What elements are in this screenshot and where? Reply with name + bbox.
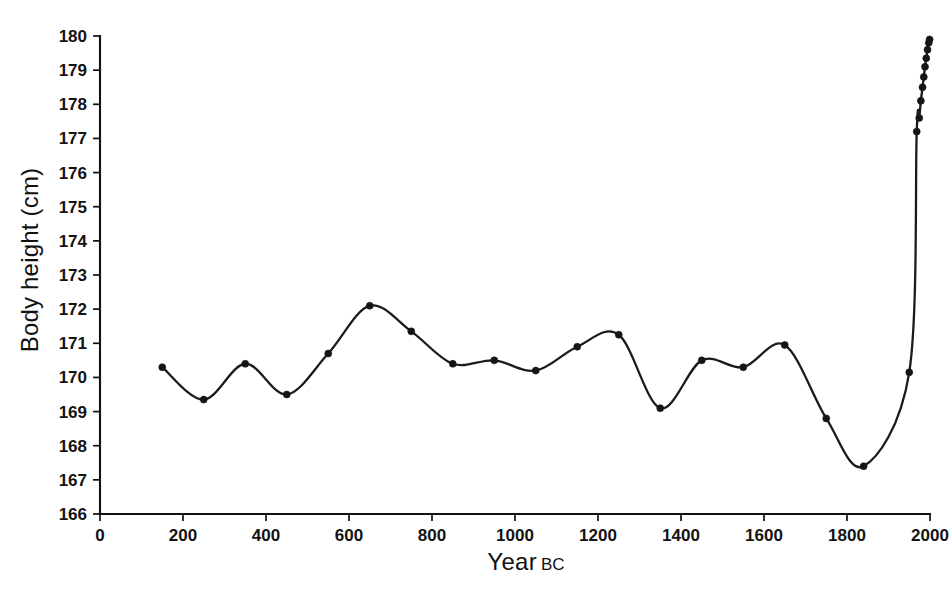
data-point-marker — [913, 128, 920, 135]
data-point-marker — [657, 405, 664, 412]
y-axis-tick-labels: 1661671681691701711721731741751761771781… — [59, 27, 88, 524]
data-point-marker — [242, 360, 249, 367]
y-tick-label: 178 — [59, 95, 87, 114]
data-point-marker — [449, 360, 456, 367]
y-tick-label: 172 — [59, 300, 87, 319]
data-point-marker — [491, 357, 498, 364]
data-point-marker — [615, 331, 622, 338]
x-tick-label: 0 — [95, 526, 104, 545]
data-point-marker — [922, 63, 929, 70]
data-line-body-height — [162, 39, 929, 467]
y-tick-label: 179 — [59, 61, 87, 80]
data-point-marker — [408, 328, 415, 335]
y-tick-label: 175 — [59, 198, 87, 217]
data-point-marker — [781, 341, 788, 348]
y-tick-label: 168 — [59, 437, 87, 456]
y-tick-label: 176 — [59, 164, 87, 183]
y-tick-label: 171 — [59, 334, 87, 353]
axes — [100, 36, 930, 514]
x-tick-label: 1800 — [828, 526, 866, 545]
data-point-marker — [920, 73, 927, 80]
x-tick-label: 400 — [252, 526, 280, 545]
y-tick-label: 169 — [59, 403, 87, 422]
y-tick-label: 174 — [59, 232, 88, 251]
x-tick-label: 600 — [335, 526, 363, 545]
data-series-group — [159, 36, 933, 470]
y-tick-label: 167 — [59, 471, 87, 490]
y-tick-label: 170 — [59, 368, 87, 387]
data-point-marker — [923, 55, 930, 62]
x-tick-label: 1600 — [745, 526, 783, 545]
x-axis-tick-labels: 0200400600800100012001400160018002000 — [95, 526, 949, 545]
data-point-marker — [823, 415, 830, 422]
data-point-marker — [906, 369, 913, 376]
data-point-marker — [532, 367, 539, 374]
x-tick-label: 200 — [169, 526, 197, 545]
chart-plot-area: 1661671681691701711721731741751761771781… — [0, 0, 952, 598]
y-tick-label: 180 — [59, 27, 87, 46]
data-point-marker — [159, 364, 166, 371]
data-point-marker — [926, 36, 933, 43]
data-point-marker — [919, 84, 926, 91]
body-height-line-chart: 1661671681691701711721731741751761771781… — [0, 0, 952, 598]
data-point-marker — [860, 463, 867, 470]
data-point-marker — [740, 364, 747, 371]
y-tick-label: 177 — [59, 129, 87, 148]
data-point-marker — [366, 302, 373, 309]
data-point-marker — [325, 350, 332, 357]
tick-marks — [93, 36, 930, 521]
data-point-marker — [283, 391, 290, 398]
x-tick-label: 1000 — [496, 526, 534, 545]
x-tick-label: 1400 — [662, 526, 700, 545]
data-point-marker — [924, 46, 931, 53]
y-tick-label: 166 — [59, 505, 87, 524]
x-tick-label: 1200 — [579, 526, 617, 545]
x-tick-label: 2000 — [911, 526, 949, 545]
data-point-marker — [917, 97, 924, 104]
y-tick-label: 173 — [59, 266, 87, 285]
data-point-marker — [698, 357, 705, 364]
x-tick-label: 800 — [418, 526, 446, 545]
data-point-marker — [200, 396, 207, 403]
data-point-marker — [916, 114, 923, 121]
data-point-marker — [574, 343, 581, 350]
